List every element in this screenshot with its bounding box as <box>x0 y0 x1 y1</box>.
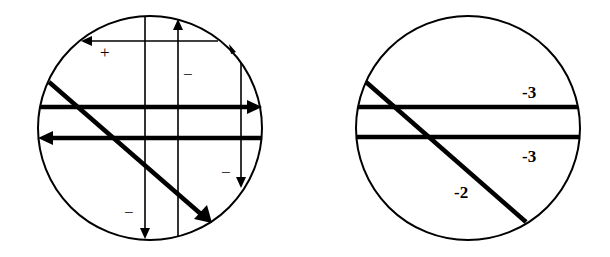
label-diagonal: -2 <box>454 183 468 202</box>
right-circle-panel: -3 -3 -2 <box>350 16 590 240</box>
sign-minus-bottom-left: − <box>124 203 134 222</box>
label-upper-horizontal: -3 <box>522 83 536 102</box>
right-circle-boundary <box>356 16 580 240</box>
sign-minus-upper: − <box>183 65 193 84</box>
label-lower-horizontal: -3 <box>522 147 536 166</box>
thick-diagonal-line <box>366 82 526 222</box>
arrowhead-left-thick-icon <box>38 131 53 145</box>
diagram-figure: + − − − -3 -3 -2 <box>0 0 610 257</box>
thick-diagonal-line <box>49 82 202 215</box>
sign-plus-top: + <box>100 43 110 62</box>
left-circle-panel: + − − − <box>38 16 262 240</box>
left-circle-boundary <box>38 16 262 240</box>
arrowhead-down-icon <box>140 228 150 239</box>
arrowhead-small-curve-icon <box>229 44 236 54</box>
sign-minus-right: − <box>221 163 231 182</box>
